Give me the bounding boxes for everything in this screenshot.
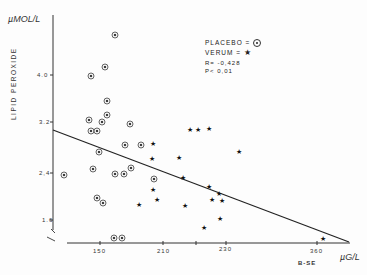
verum-point: ★: [180, 174, 186, 181]
verum-point: ★: [182, 202, 188, 209]
placebo-point: [111, 235, 117, 241]
x-tick-label: 210: [157, 248, 170, 254]
placebo-point: [88, 128, 94, 134]
placebo-point: [61, 172, 67, 178]
verum-point: ★: [136, 201, 142, 208]
placebo-point: [119, 235, 125, 241]
y-axis-title: LIPID PEROXIDE: [10, 47, 17, 120]
y-axis-break: [47, 229, 55, 241]
placebo-point: [86, 117, 92, 123]
scatter-chart: ★★★★★★★★★★★★★★★★★★★ µMOL/L LIPID PEROXID…: [0, 0, 367, 275]
placebo-point: [100, 200, 106, 206]
y-tick-label: 2,4: [39, 170, 50, 176]
verum-point: ★: [150, 186, 156, 193]
x-unit-label: µG/L: [340, 252, 360, 262]
verum-point: ★: [206, 183, 212, 190]
placebo-point: [127, 121, 133, 127]
verum-point: ★: [320, 235, 326, 242]
star-icon: ★: [244, 48, 252, 57]
verum-point: ★: [216, 190, 222, 197]
placebo-points: [61, 32, 157, 241]
legend-placebo: PLACEBO =: [205, 38, 261, 48]
placebo-point: [90, 166, 96, 172]
verum-point: ★: [149, 155, 155, 162]
y-unit-label: µMOL/L: [8, 14, 40, 24]
circled-dot-icon: [253, 39, 261, 47]
verum-point: ★: [206, 125, 212, 132]
placebo-point: [94, 195, 100, 201]
verum-point: ★: [236, 148, 242, 155]
placebo-point: [151, 176, 157, 182]
x-tick-label: 230: [219, 246, 232, 252]
placebo-point: [122, 142, 128, 148]
verum-point: ★: [154, 196, 160, 203]
placebo-point: [104, 98, 110, 104]
placebo-point: [112, 171, 118, 177]
placebo-point: [104, 112, 110, 118]
x-tick-label: 150: [93, 248, 106, 254]
y-tick-label: 3.2: [39, 119, 50, 125]
placebo-point: [96, 149, 102, 155]
placebo-point: [112, 32, 118, 38]
verum-points: ★★★★★★★★★★★★★★★★★★★: [136, 125, 326, 242]
placebo-point: [102, 64, 108, 70]
placebo-point: [94, 128, 100, 134]
verum-point: ★: [209, 196, 215, 203]
verum-point: ★: [219, 197, 225, 204]
x-tick-label: 360: [310, 248, 323, 254]
x-axis-title: B-SE: [298, 260, 316, 266]
y-tick-label: 4.0: [37, 72, 48, 78]
verum-point: ★: [187, 126, 193, 133]
legend-verum: VERUM = ★: [205, 48, 261, 58]
plot-area: ★★★★★★★★★★★★★★★★★★★: [0, 0, 367, 275]
verum-point: ★: [176, 154, 182, 161]
placebo-point: [99, 119, 105, 125]
verum-point: ★: [201, 224, 207, 231]
placebo-point: [128, 165, 134, 171]
placebo-point: [88, 73, 94, 79]
placebo-point: [138, 142, 144, 148]
y-tick-label: 1.6: [42, 217, 53, 223]
verum-point: ★: [217, 215, 223, 222]
placebo-point: [121, 171, 127, 177]
verum-point: ★: [195, 126, 201, 133]
verum-point: ★: [150, 140, 156, 147]
legend: PLACEBO = VERUM = ★ R= -0,428 P< 0,01: [205, 38, 261, 76]
